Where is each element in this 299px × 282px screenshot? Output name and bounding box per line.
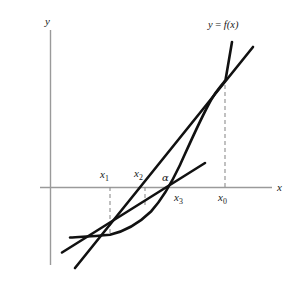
function-label-eq: = [213,19,224,30]
figure-container: y x y = f(x) x1 x2 α x3 x0 [0,0,299,282]
point-label-x2: x2 [134,168,143,181]
function-label-fx: f(x) [224,19,239,30]
point-label-x0: x0 [218,192,227,205]
point-label-x3: x3 [174,192,183,205]
point-label-x3-sub: 3 [179,197,183,206]
point-label-x0-sub: 0 [223,197,227,206]
secant-line-primary [75,47,253,268]
x-axis-label: x [277,182,282,193]
function-label: y = f(x) [208,20,238,31]
root-label-alpha: α [162,173,169,183]
point-label-x1: x1 [100,169,109,182]
diagram-canvas [0,0,299,282]
point-label-x1-sub: 1 [105,174,109,183]
function-curve [70,42,232,238]
point-label-x2-sub: 2 [139,173,143,182]
y-axis-label: y [45,16,50,27]
